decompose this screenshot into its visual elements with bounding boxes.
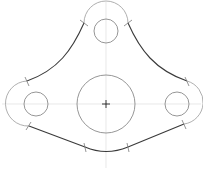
center-mark-icon: [102, 100, 110, 108]
drawing-canvas: [0, 0, 203, 170]
lobe-arcs: [5, 1, 203, 126]
left-arc: [5, 81, 29, 126]
part-drawing: [0, 0, 203, 170]
part-outline: [27, 23, 187, 152]
lobe-holes: [24, 19, 189, 116]
right-arc: [184, 81, 203, 124]
